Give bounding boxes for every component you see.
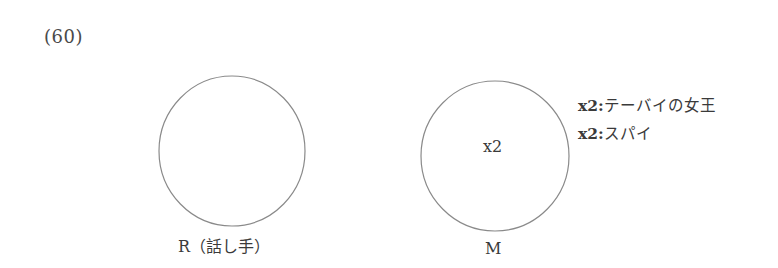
description-line-2: x2:スパイ (578, 121, 652, 143)
circle-m-inner-element: x2 (483, 137, 502, 156)
description-text: テーバイの女王 (604, 97, 716, 115)
circle-m-label: M (485, 239, 501, 258)
space-circle-m (421, 81, 569, 231)
mental-space-diagram (0, 0, 778, 268)
space-circle-r (159, 76, 305, 226)
circle-r-label: R（話し手） (178, 233, 270, 257)
description-var: x2: (578, 124, 604, 143)
description-text: スパイ (604, 125, 652, 143)
description-var: x2: (578, 96, 604, 115)
description-line-1: x2:テーバイの女王 (578, 93, 716, 115)
